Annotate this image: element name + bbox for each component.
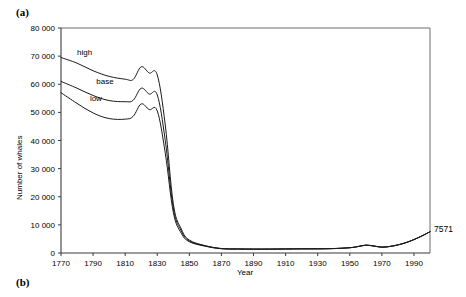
y-tick-label: 10 000 [31, 221, 56, 230]
y-tick-label: 60 000 [31, 80, 56, 89]
x-tick-label: 1770 [52, 259, 70, 268]
series-line-base [61, 81, 430, 249]
whale-population-chart: 010 00020 00030 00040 00050 00060 00070 … [0, 0, 466, 297]
x-tick-label: 1910 [277, 259, 295, 268]
series-label-high: high [77, 48, 92, 57]
y-tick-label: 40 000 [31, 137, 56, 146]
y-tick-label: 80 000 [31, 24, 56, 33]
figure-container: (a) 010 00020 00030 00040 00050 00060 00… [0, 0, 466, 297]
x-tick-label: 1990 [405, 259, 423, 268]
series-label-group: highbaselow [77, 48, 114, 103]
panel-label-b: (b) [16, 276, 29, 288]
x-tick-label: 1930 [309, 259, 327, 268]
x-tick-label: 1950 [341, 259, 359, 268]
x-tick-label: 1810 [116, 259, 134, 268]
series-label-base: base [96, 77, 114, 86]
x-tick-label: 1830 [148, 259, 166, 268]
x-tick-label: 1850 [180, 259, 198, 268]
y-axis-ticks: 010 00020 00030 00040 00050 00060 00070 … [31, 24, 61, 258]
y-tick-label: 50 000 [31, 108, 56, 117]
series-line-low [61, 93, 430, 249]
series-line-high [61, 58, 430, 250]
series-paths-group [61, 58, 430, 250]
y-axis-title: Number of whales [15, 136, 24, 200]
end-value-annotation: 7571 [434, 224, 453, 234]
y-tick-label: 70 000 [31, 52, 56, 61]
plot-frame [61, 28, 430, 253]
y-tick-label: 30 000 [31, 165, 56, 174]
x-axis-ticks: 1770179018101830185018701890191019301950… [52, 253, 423, 268]
y-tick-label: 20 000 [31, 193, 56, 202]
x-tick-label: 1870 [213, 259, 231, 268]
x-tick-label: 1970 [373, 259, 391, 268]
x-axis-title: Year [237, 268, 254, 277]
x-tick-label: 1790 [84, 259, 102, 268]
y-tick-label: 0 [51, 249, 56, 258]
series-label-low: low [90, 94, 102, 103]
x-tick-label: 1890 [245, 259, 263, 268]
